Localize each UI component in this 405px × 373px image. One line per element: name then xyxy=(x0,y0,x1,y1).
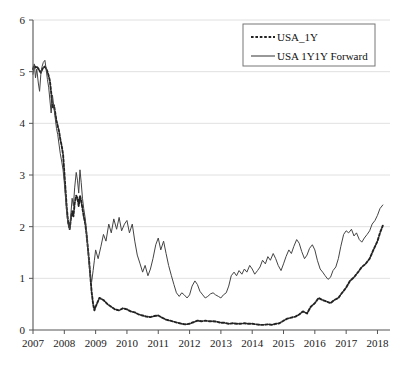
x-tick-label-2014: 2014 xyxy=(241,337,264,349)
x-tick-label-2016: 2016 xyxy=(304,337,327,349)
x-tick-label-2012: 2012 xyxy=(179,337,201,349)
x-tick-label-2015: 2015 xyxy=(273,337,296,349)
legend-label-1: USA 1Y1Y Forward xyxy=(277,50,368,62)
y-tick-label-1: 1 xyxy=(20,272,26,284)
chart-container: 2007200820092010201120122013201420152016… xyxy=(0,0,405,373)
x-tick-label-2009: 2009 xyxy=(85,337,108,349)
y-tick-label-4: 4 xyxy=(20,117,26,129)
x-tick-label-2007: 2007 xyxy=(22,337,45,349)
x-tick-label-2010: 2010 xyxy=(116,337,139,349)
legend-label-0: USA_1Y xyxy=(277,31,318,43)
x-tick-label-2017: 2017 xyxy=(335,337,358,349)
x-tick-label-2013: 2013 xyxy=(210,337,233,349)
chart-legend: USA_1YUSA 1Y1Y Forward xyxy=(243,24,375,66)
x-tick-label-2011: 2011 xyxy=(147,337,169,349)
line-chart: 2007200820092010201120122013201420152016… xyxy=(0,0,405,373)
x-tick-label-2018: 2018 xyxy=(366,337,389,349)
y-tick-label-5: 5 xyxy=(20,66,26,78)
y-tick-label-6: 6 xyxy=(20,14,26,26)
y-tick-label-2: 2 xyxy=(20,221,26,233)
y-tick-label-0: 0 xyxy=(20,324,26,336)
y-tick-label-3: 3 xyxy=(20,169,26,181)
x-tick-label-2008: 2008 xyxy=(53,337,76,349)
